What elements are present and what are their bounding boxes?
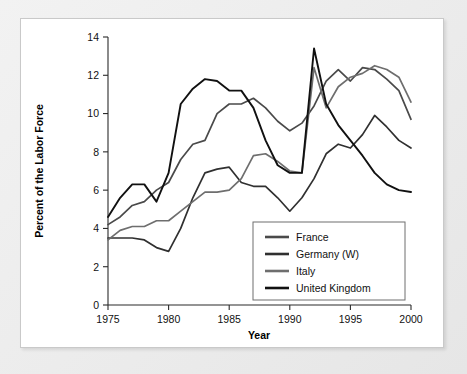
legend-label-united-kingdom: United Kingdom xyxy=(296,282,371,294)
y-tick-label: 8 xyxy=(93,146,99,158)
x-tick-label: 1990 xyxy=(278,313,302,325)
x-tick-label: 2000 xyxy=(399,313,423,325)
figure-frame: 02468101214 197519801985199019952000 Per… xyxy=(0,0,467,374)
y-tick-label: 6 xyxy=(93,184,99,196)
legend-label-germany-w: Germany (W) xyxy=(296,248,359,260)
series-line-france xyxy=(108,68,411,225)
chart-card: 02468101214 197519801985199019952000 Per… xyxy=(20,18,444,348)
x-axis-ticks: 197519801985199019952000 xyxy=(96,305,423,325)
x-tick-label: 1975 xyxy=(96,313,120,325)
y-tick-label: 10 xyxy=(87,107,99,119)
x-axis-title: Year xyxy=(248,329,270,341)
x-tick-label: 1995 xyxy=(339,313,363,325)
series-line-italy xyxy=(108,66,411,240)
legend-label-france: France xyxy=(296,231,329,243)
series-line-united-kingdom xyxy=(108,48,411,216)
legend-label-italy: Italy xyxy=(296,265,316,277)
y-axis-ticks: 02468101214 xyxy=(87,31,108,311)
x-tick-label: 1980 xyxy=(157,313,181,325)
y-tick-label: 2 xyxy=(93,261,99,273)
y-tick-label: 0 xyxy=(93,299,99,311)
x-tick-label: 1985 xyxy=(218,313,242,325)
chart-legend: FranceGermany (W)ItalyUnited Kingdom xyxy=(253,222,405,300)
y-tick-label: 14 xyxy=(87,31,99,43)
y-tick-label: 4 xyxy=(93,222,99,234)
y-tick-label: 12 xyxy=(87,69,99,81)
line-chart: 02468101214 197519801985199019952000 Per… xyxy=(21,19,445,349)
series-lines xyxy=(108,48,411,251)
y-axis-title: Percent of the Labor Force xyxy=(33,104,45,238)
